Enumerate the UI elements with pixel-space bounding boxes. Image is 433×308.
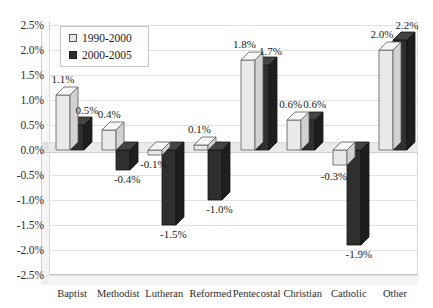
dark-square-swatch [69, 51, 77, 59]
bar-other-1990-2000 [379, 50, 393, 150]
bar-methodist-1990-2000 [102, 130, 116, 150]
value-label-2000-2005: 1.7% [249, 45, 293, 57]
y-axis-tick-label: 2.0% [0, 44, 44, 56]
bar-methodist-2000-2005 [116, 150, 130, 170]
value-label-1990-2000: -0.1% [131, 158, 175, 170]
y-axis-tick-label: -1.0% [0, 194, 44, 206]
value-label-1990-2000: 0.4% [87, 108, 131, 120]
value-label-1990-2000: 1.1% [41, 73, 85, 85]
bar-lutheran-1990-2000 [148, 150, 162, 155]
y-axis-tick-label: 0.0% [0, 144, 44, 156]
y-axis-tick-label: -1.5% [0, 219, 44, 231]
legend-item[interactable]: 2000-2005 [69, 49, 132, 61]
light-square-swatch [69, 34, 77, 42]
grouped-bar-chart: 2.5%2.0%1.5%1.0%0.5%0.0%-0.5%-1.0%-1.5%-… [0, 0, 433, 308]
value-label-2000-2005: 2.2% [385, 19, 429, 31]
bar-christian-1990-2000 [287, 120, 301, 150]
y-axis-tick-label: -2.5% [0, 269, 44, 281]
bar-pentecostal-1990-2000 [241, 60, 255, 150]
legend-item[interactable]: 1990-2000 [69, 32, 132, 44]
y-axis-tick-label: -0.5% [0, 169, 44, 181]
value-label-2000-2005: -1.0% [197, 203, 241, 215]
legend[interactable]: 1990-2000 2000-2005 [60, 26, 149, 67]
value-label-1990-2000: -0.3% [312, 170, 356, 182]
y-axis-tick-label: -2.0% [0, 244, 44, 256]
legend-item-label: 1990-2000 [82, 32, 132, 44]
y-axis-tick-labels: 2.5%2.0%1.5%1.0%0.5%0.0%-0.5%-1.0%-1.5%-… [0, 0, 44, 308]
value-label-2000-2005: 0.6% [293, 98, 337, 110]
x-axis-tick-label: Other [365, 288, 425, 300]
value-label-2000-2005: -1.5% [151, 228, 195, 240]
bar-catholic-1990-2000 [333, 150, 347, 165]
gridline [49, 100, 418, 101]
value-label-2000-2005: -0.4% [105, 173, 149, 185]
plot-floor [41, 275, 418, 285]
bar-reformed-2000-2005 [208, 150, 222, 200]
legend-item-label: 2000-2005 [82, 49, 132, 61]
y-axis-tick-label: 1.0% [0, 94, 44, 106]
value-label-2000-2005: -1.9% [337, 248, 381, 260]
value-label-1990-2000: 0.1% [177, 123, 221, 135]
gridline [49, 75, 418, 76]
y-axis-tick-label: 2.5% [0, 19, 44, 31]
y-axis-tick-label: 0.5% [0, 119, 44, 131]
y-axis-tick-label: 1.5% [0, 69, 44, 81]
gridline [49, 275, 418, 276]
bar-reformed-1990-2000 [194, 145, 208, 150]
